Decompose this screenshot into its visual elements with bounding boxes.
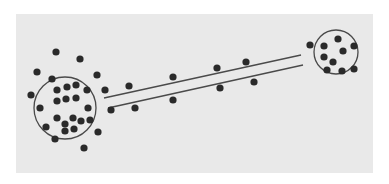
left-cluster-dot: [36, 104, 43, 111]
left-cluster-dot: [86, 116, 93, 123]
left-cluster-dot: [80, 144, 87, 151]
left-cluster-dot: [84, 104, 91, 111]
channel-lines: [104, 55, 303, 108]
right-cluster-dot: [329, 58, 336, 65]
left-cluster-dot: [53, 97, 60, 104]
channel-upper-line: [104, 55, 301, 98]
left-cluster-dot: [33, 68, 40, 75]
left-cluster-dot: [51, 135, 58, 142]
channel-dot: [213, 64, 220, 71]
right-cluster-dot: [350, 65, 357, 72]
right-cluster-dot: [350, 42, 357, 49]
left-cluster-dot: [27, 91, 34, 98]
channel-dot: [216, 84, 223, 91]
right-cluster-dot: [338, 67, 345, 74]
left-cluster-dot: [53, 114, 60, 121]
left-cluster-dot: [63, 83, 70, 90]
left-cluster-dot: [61, 120, 68, 127]
right-cluster-dot: [339, 47, 346, 54]
left-cluster-dot: [52, 48, 59, 55]
left-cluster-dot: [107, 106, 114, 113]
left-cluster-dot: [72, 81, 79, 88]
channel-dot: [131, 104, 138, 111]
channel-dot: [169, 96, 176, 103]
left-cluster-dot: [83, 86, 90, 93]
cluster-channel-diagram: [0, 0, 389, 184]
channel-dot: [169, 73, 176, 80]
right-cluster-dot: [306, 41, 313, 48]
left-cluster-dot: [62, 95, 69, 102]
left-cluster-dot: [94, 128, 101, 135]
right-cluster-dot: [320, 53, 327, 60]
left-cluster-dot: [93, 71, 100, 78]
left-cluster-dot: [101, 86, 108, 93]
left-cluster-dot: [76, 55, 83, 62]
left-cluster-dot: [72, 94, 79, 101]
right-cluster-dot: [334, 35, 341, 42]
channel-lower-line: [108, 65, 303, 108]
particle-dots: [27, 35, 357, 151]
left-cluster-dot: [42, 123, 49, 130]
channel-dot: [242, 58, 249, 65]
left-cluster-dot: [70, 125, 77, 132]
right-cluster-dot: [323, 66, 330, 73]
right-cluster-dot: [320, 42, 327, 49]
left-cluster-dot: [69, 114, 76, 121]
channel-dot: [250, 78, 257, 85]
left-cluster-dot: [48, 75, 55, 82]
left-cluster-dot: [77, 117, 84, 124]
left-cluster-dot: [53, 86, 60, 93]
left-cluster-dot: [61, 127, 68, 134]
channel-dot: [125, 82, 132, 89]
